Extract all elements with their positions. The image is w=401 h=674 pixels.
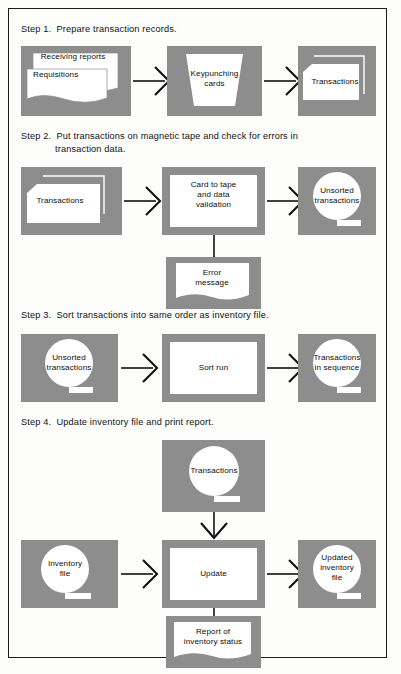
unsorted-transactions-label: Unsorted transactions: [302, 186, 372, 206]
step-3-heading-line1: Step 3. Sort transactions into same orde…: [21, 309, 269, 322]
tape-tail-3: [337, 387, 361, 393]
sort-run-label: Sort run: [170, 363, 257, 373]
inventory-file-label: Inventory file: [30, 559, 100, 579]
error-message-label: Error message: [172, 268, 252, 288]
connector-card-to-tape-to-error-message: [212, 235, 216, 257]
step-2-heading-line2: transaction data.: [55, 143, 125, 156]
step4-panel-transactions: [162, 440, 265, 512]
tape-tail-6: [337, 593, 361, 599]
tape-tail-2: [69, 387, 93, 393]
arrow-unsorted-to-sort-run: [121, 354, 161, 382]
transactions-input-label: Transactions: [25, 196, 95, 206]
updated-inventory-file-label: Updated inventory file: [302, 553, 372, 583]
step-1-heading-line1: Step 1. Prepare transaction records.: [21, 23, 177, 36]
magnetic-tape-symbol-group-4: [162, 440, 265, 512]
arrow-transactions-to-card-to-tape: [124, 187, 164, 215]
figure-frame: Step 1. Prepare transaction records. Rec…: [8, 8, 387, 658]
arrow-transactions-to-update: [200, 512, 228, 540]
transactions-tape-label: Transactions: [179, 466, 249, 476]
tape-tail: [337, 220, 361, 226]
tape-tail-5: [65, 593, 91, 599]
requisitions-label: Requisitions: [27, 70, 105, 80]
receiving-reports-label: Receiving reports: [33, 52, 113, 62]
update-label: Update: [170, 569, 257, 579]
report-of-inventory-status-label: Report of inventory status: [168, 627, 258, 647]
unsorted-transactions-2-label: Unsorted transactions: [34, 353, 104, 373]
keypunching-cards-label: Keypunching cards: [172, 69, 257, 89]
card-to-tape-label: Card to tape and data validation: [170, 180, 257, 210]
figure-page: Step 1. Prepare transaction records. Rec…: [0, 0, 401, 674]
tape-tail-4: [214, 496, 240, 502]
step-4-heading-line1: Step 4. Update inventory file and print …: [21, 416, 214, 429]
transactions-in-sequence-label: Transactions in sequence: [302, 353, 372, 373]
arrow-inventory-to-update: [121, 560, 161, 588]
step-2-heading-line1: Step 2. Put transactions on magnetic tap…: [21, 130, 298, 143]
transactions-cards-label: Transactions: [300, 77, 370, 87]
